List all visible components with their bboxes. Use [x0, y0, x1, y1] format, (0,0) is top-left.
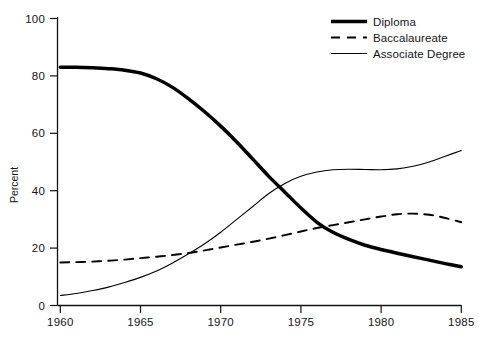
series-group	[60, 67, 461, 295]
legend-label-baccalaureate: Baccalaureate	[373, 32, 448, 44]
x-tick-label-1985: 1985	[448, 316, 474, 328]
chart-container: 0 20 40 60 80 100 1960 1965 1970 1975 19…	[0, 0, 479, 342]
legend-label-associate-degree: Associate Degree	[373, 48, 465, 60]
series-line-diploma	[60, 67, 461, 267]
legend-label-diploma: Diploma	[373, 16, 416, 28]
y-axis-ticks	[50, 19, 58, 306]
x-tick-label-1965: 1965	[127, 316, 153, 328]
x-tick-label-1975: 1975	[288, 316, 314, 328]
y-tick-label-0: 0	[38, 300, 45, 312]
chart-legend: Diploma Baccalaureate Associate Degree	[331, 16, 465, 60]
y-axis-title: Percent	[8, 167, 20, 203]
x-axis-ticks	[60, 306, 461, 314]
y-tick-label-60: 60	[32, 127, 45, 139]
series-line-associate-degree	[60, 151, 461, 296]
x-tick-label-1980: 1980	[368, 316, 394, 328]
y-tick-label-80: 80	[32, 70, 45, 82]
y-tick-label-100: 100	[25, 13, 45, 25]
line-chart-plot: 0 20 40 60 80 100 1960 1965 1970 1975 19…	[0, 0, 479, 342]
cropped-caption-remnant	[0, 335, 479, 342]
y-tick-label-40: 40	[32, 185, 45, 197]
x-tick-label-1970: 1970	[208, 316, 234, 328]
y-tick-label-20: 20	[32, 242, 45, 254]
x-tick-label-1960: 1960	[47, 316, 73, 328]
